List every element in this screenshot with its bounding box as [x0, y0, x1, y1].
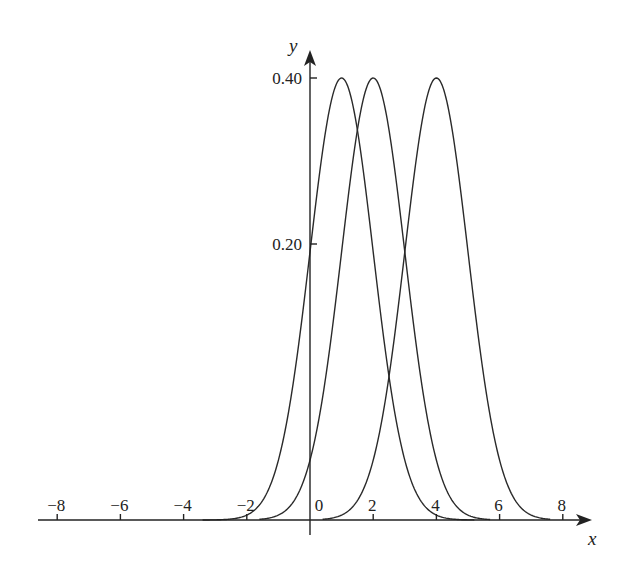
x-tick-label: −6 — [110, 496, 128, 515]
normal-density-chart: −8−6−4−202468 0.200.40 x y — [0, 0, 632, 568]
x-tick-label: 8 — [558, 496, 567, 515]
x-ticks: −8−6−4−202468 — [47, 496, 566, 520]
x-tick-label: −2 — [237, 496, 255, 515]
y-tick-label: 0.40 — [272, 69, 302, 88]
curves — [203, 78, 551, 520]
density-curve-3 — [323, 78, 551, 519]
x-tick-label: 0 — [315, 496, 324, 515]
y-tick-label: 0.20 — [272, 235, 302, 254]
x-tick-label: −4 — [174, 496, 193, 515]
x-axis-label: x — [587, 528, 597, 549]
x-tick-label: −8 — [47, 496, 65, 515]
x-tick-label: 6 — [494, 496, 503, 515]
x-tick-label: 2 — [368, 496, 377, 515]
density-curve-1 — [203, 78, 475, 520]
x-tick-label: 4 — [431, 496, 440, 515]
y-axis-label: y — [287, 35, 298, 56]
